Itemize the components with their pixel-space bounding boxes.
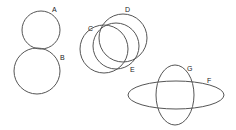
label-f: F bbox=[207, 77, 211, 84]
label-b: B bbox=[60, 54, 65, 61]
circle-d bbox=[99, 14, 147, 62]
circle-a bbox=[22, 11, 60, 49]
circle-b bbox=[14, 48, 60, 94]
label-d: D bbox=[125, 6, 130, 13]
label-a: A bbox=[52, 6, 57, 13]
label-g: G bbox=[187, 65, 192, 72]
label-e: E bbox=[130, 66, 135, 73]
ellipse-f bbox=[128, 81, 224, 109]
ellipse-g bbox=[156, 65, 194, 125]
label-c: C bbox=[88, 25, 93, 32]
diagram-canvas: A B C D E F G bbox=[0, 0, 236, 130]
